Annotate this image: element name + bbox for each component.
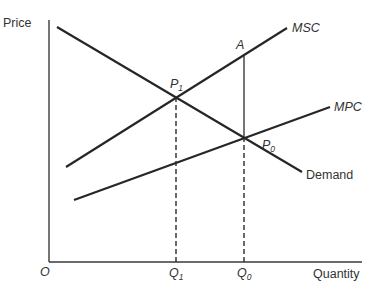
x-axis-label: Quantity (313, 267, 360, 281)
point-p0-label: P0 (262, 138, 275, 154)
demand-label: Demand (306, 168, 353, 182)
point-a-label: A (235, 38, 244, 52)
externality-diagram: Price Quantity O Demand MSC MPC P1 P0 A … (0, 0, 378, 298)
origin-label: O (40, 265, 50, 279)
point-p1-label: P1 (170, 77, 183, 93)
q0-label: Q0 (237, 266, 252, 282)
q1-label: Q1 (169, 266, 184, 282)
y-axis-label: Price (3, 16, 32, 30)
mpc-curve (74, 107, 330, 200)
msc-label: MSC (292, 21, 321, 35)
mpc-label: MPC (334, 100, 363, 114)
